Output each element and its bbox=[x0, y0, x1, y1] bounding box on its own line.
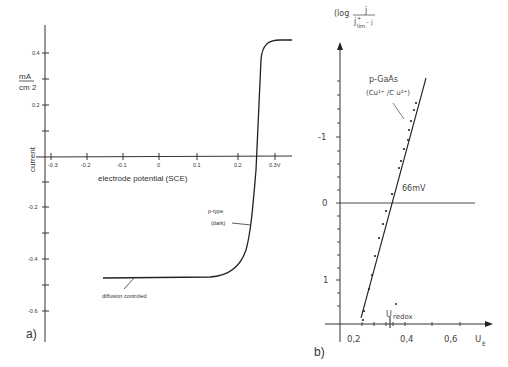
b-xtick-0.4: 0,4 bbox=[400, 334, 414, 344]
a-ytick-neg0.4: -0.4 bbox=[28, 256, 37, 262]
b-x-axis-title: U bbox=[475, 334, 481, 344]
b-y-axis-title-prefix: (log bbox=[334, 9, 349, 18]
a-xtick-0.1: 0.1 bbox=[193, 162, 201, 168]
a-x-axis-title: electrode potential (SCE) bbox=[98, 174, 188, 183]
a-ytick-0.2: 0.2 bbox=[32, 102, 40, 108]
panel-a: 0.4 0.2 -0.2 -0.4 -0.6 -0.3 -0.2 -0.1 0 … bbox=[19, 25, 292, 342]
b-ytick-0: 0 bbox=[322, 198, 327, 208]
a-panel-label: a) bbox=[26, 327, 37, 341]
b-panel-label: b) bbox=[314, 345, 325, 359]
a-xtick-neg0.1: -0.1 bbox=[117, 162, 126, 168]
b-annotation-slope: 66mV bbox=[402, 184, 426, 193]
a-x-axis bbox=[36, 156, 292, 157]
a-ytick-0.4: 0.4 bbox=[32, 50, 40, 56]
a-yunit-numerator: mA bbox=[19, 72, 32, 81]
b-fit-line bbox=[361, 78, 426, 318]
a-yunit-denominator: cm 2 bbox=[19, 83, 37, 92]
b-annotation-leader bbox=[393, 103, 404, 119]
a-annotation-diffusion: diffusion controled bbox=[102, 293, 147, 299]
a-annotation-dark-leader bbox=[232, 223, 251, 225]
a-xtick-0: 0 bbox=[157, 162, 160, 168]
a-xtick-neg0.2: -0.2 bbox=[81, 162, 90, 168]
a-ytick-neg0.6: -0.6 bbox=[28, 308, 37, 314]
b-annotation-material: p-GaAs bbox=[369, 75, 398, 84]
b-annotation-redox-sub: redox bbox=[393, 313, 413, 321]
b-ytick-1: 1 bbox=[323, 275, 328, 285]
b-y-ticks bbox=[336, 81, 340, 306]
b-y-axis-title-den-sub: lim bbox=[357, 23, 365, 29]
b-annotation-couple: (Cu¹⁺ /C u²⁺) bbox=[366, 89, 410, 97]
a-xtick-0.2: 0.2 bbox=[234, 162, 242, 168]
figure: 0.4 0.2 -0.2 -0.4 -0.6 -0.3 -0.2 -0.1 0 … bbox=[0, 0, 508, 367]
a-y-axis-title: current bbox=[28, 146, 37, 172]
a-annotation-ptype: p-type bbox=[208, 208, 223, 214]
b-y-axis-title-numerator: j bbox=[364, 6, 367, 15]
b-y-axis-title-den-sup: + bbox=[357, 15, 361, 21]
b-annotation-redox-dot bbox=[395, 303, 397, 305]
b-y-axis-arrow-icon bbox=[337, 42, 343, 50]
b-xtick-0.6: 0,6 bbox=[444, 334, 458, 344]
b-x-axis-title-sub: E bbox=[482, 340, 486, 347]
panel-b: -1 0 1 0,2 0,4 0,6 U E (log j j + lim – … bbox=[314, 6, 493, 359]
a-ytick-neg0.2: -0.2 bbox=[28, 204, 37, 210]
b-x-axis-arrow-icon bbox=[485, 321, 493, 327]
b-y-axis-title-den-tail: – j bbox=[366, 18, 373, 26]
a-xtick-0.3V: 0.3V bbox=[269, 162, 281, 168]
b-y-axis-title-denominator: j bbox=[353, 17, 356, 26]
a-xtick-neg0.3: -0.3 bbox=[48, 162, 57, 168]
b-ytick-neg1: -1 bbox=[318, 132, 326, 142]
b-annotation-redox: U bbox=[386, 310, 392, 319]
b-xtick-0.2: 0,2 bbox=[347, 334, 361, 344]
a-annotation-dark: (dark) bbox=[211, 220, 226, 226]
a-annotation-diffusion-leader bbox=[124, 278, 134, 289]
